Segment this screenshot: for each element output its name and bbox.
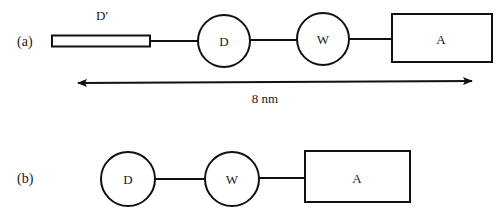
- spacer-label-a: W: [317, 32, 330, 47]
- panel-a-label: (a): [17, 34, 33, 50]
- spacer-label-b: W: [226, 172, 239, 187]
- dprime-bar: [52, 36, 150, 47]
- panel-a: (a) D′ D W A 8 nm: [17, 8, 492, 106]
- dprime-label: D′: [96, 8, 108, 23]
- distance-label: 8 nm: [252, 91, 278, 106]
- panel-b-label: (b): [17, 171, 34, 187]
- donor-label-a: D: [219, 34, 228, 49]
- diagram-canvas: (a) D′ D W A 8 nm (b) D W A: [0, 0, 502, 221]
- donor-label-b: D: [123, 172, 132, 187]
- acceptor-label-b: A: [352, 171, 362, 186]
- acceptor-label-a: A: [436, 32, 446, 47]
- distance-arrow: [78, 81, 472, 83]
- panel-b: (b) D W A: [17, 151, 410, 206]
